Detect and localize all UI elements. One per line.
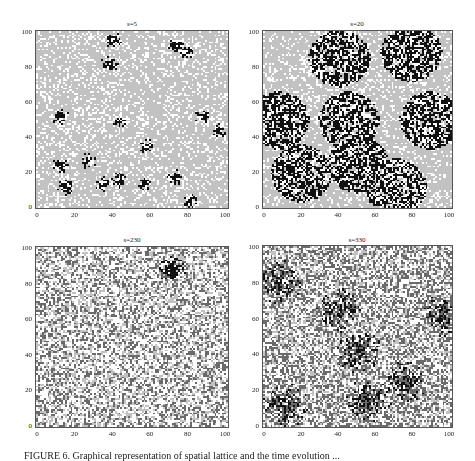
lattice-canvas [36,31,228,208]
y-tick-label: 60 [16,316,32,323]
y-tick-label: 80 [16,281,32,288]
panel-title: s=230 [102,236,162,244]
x-tick-label: 80 [402,212,422,219]
y-tick-label: 40 [243,134,259,141]
x-tick-label: 40 [328,212,348,219]
y-tick-label: 60 [243,316,259,323]
y-tick-label: 80 [16,64,32,71]
y-tick-label: 60 [16,99,32,106]
y-tick-label: 0 [16,204,32,211]
lattice-canvas [263,246,452,427]
lattice-plot [35,246,229,428]
x-tick-label: 100 [439,431,459,438]
y-tick-label: 0 [16,423,32,430]
x-tick-label: 0 [27,212,47,219]
y-tick-label: 0 [243,204,259,211]
y-tick-label: 0 [243,423,259,430]
y-tick-label: 80 [243,280,259,287]
lattice-plot [262,245,453,428]
y-tick-label: 40 [16,352,32,359]
y-tick-label: 40 [243,351,259,358]
panel-title: s=20 [327,20,387,28]
x-tick-label: 20 [65,431,85,438]
lattice-canvas [263,31,452,208]
y-tick-label: 20 [243,387,259,394]
lattice-canvas [36,247,228,427]
y-tick-label: 100 [16,29,32,36]
x-tick-label: 40 [102,431,122,438]
x-tick-label: 80 [177,212,197,219]
x-tick-label: 20 [291,212,311,219]
panel-title: s=5 [102,20,162,28]
x-tick-label: 40 [102,212,122,219]
x-tick-label: 0 [254,212,274,219]
y-tick-label: 20 [16,387,32,394]
x-tick-label: 40 [328,431,348,438]
x-tick-label: 60 [140,212,160,219]
x-tick-label: 20 [291,431,311,438]
figure-caption: FIGURE 6. Graphical representation of sp… [24,450,340,461]
x-tick-label: 60 [140,431,160,438]
x-tick-label: 20 [65,212,85,219]
y-tick-label: 80 [243,64,259,71]
x-tick-label: 80 [402,431,422,438]
panel-title: s=330 [327,236,387,244]
x-tick-label: 0 [27,431,47,438]
x-tick-label: 100 [439,212,459,219]
x-tick-label: 80 [177,431,197,438]
y-tick-label: 20 [16,169,32,176]
y-tick-label: 40 [16,134,32,141]
lattice-plot [35,30,229,209]
lattice-plot [262,30,453,209]
x-tick-label: 100 [215,212,235,219]
y-tick-label: 100 [16,245,32,252]
x-tick-label: 0 [254,431,274,438]
y-tick-label: 60 [243,99,259,106]
y-tick-label: 20 [243,169,259,176]
x-tick-label: 60 [365,212,385,219]
y-tick-label: 100 [243,29,259,36]
x-tick-label: 60 [365,431,385,438]
y-tick-label: 100 [243,244,259,251]
x-tick-label: 100 [215,431,235,438]
